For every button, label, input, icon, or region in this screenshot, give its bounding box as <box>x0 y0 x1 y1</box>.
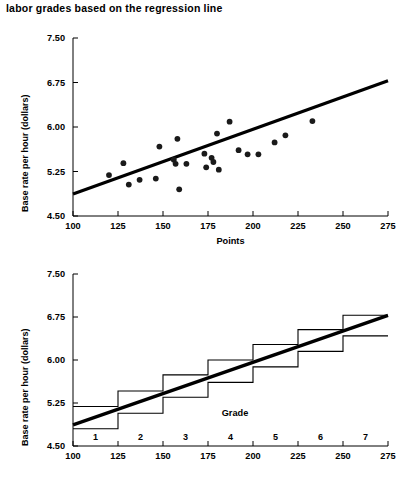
data-point <box>106 172 112 178</box>
y-tick-label: 6.75 <box>47 78 65 88</box>
x-tick-label: 250 <box>335 451 350 461</box>
data-point <box>202 151 208 157</box>
data-point <box>236 147 242 153</box>
x-tick-label: 275 <box>380 221 395 231</box>
data-point <box>203 164 209 170</box>
grade-label: 2 <box>138 432 143 442</box>
data-point <box>227 119 233 125</box>
chart2-x-axis-label: Grade <box>222 408 249 418</box>
y-tick-label: 6.00 <box>47 122 65 132</box>
data-point <box>121 160 127 166</box>
data-point <box>175 136 181 142</box>
y-tick-label: 4.50 <box>47 441 65 451</box>
step-line-upper-step <box>73 315 388 406</box>
x-tick-label: 150 <box>155 221 170 231</box>
data-point <box>126 182 132 188</box>
figure-caption: labor grades based on the regression lin… <box>6 2 223 14</box>
data-point <box>310 118 316 124</box>
y-tick-label: 6.00 <box>47 355 65 365</box>
x-tick-label: 225 <box>290 221 305 231</box>
scatter-chart: Base rate per hour (dollars) 4.505.256.0… <box>0 16 411 256</box>
x-tick-label: 100 <box>65 451 80 461</box>
data-point <box>216 167 222 173</box>
chart1-canvas: 4.505.256.006.757.5010012515017520022525… <box>0 16 411 256</box>
x-tick-label: 175 <box>200 451 215 461</box>
data-point <box>245 151 251 157</box>
grade-label: 6 <box>318 432 323 442</box>
grade-label: 3 <box>183 432 188 442</box>
chart2-canvas: 4.505.256.006.757.5010012515017520022525… <box>0 256 411 479</box>
x-tick-label: 150 <box>155 451 170 461</box>
grade-label: 7 <box>363 432 368 442</box>
regression-line <box>73 81 388 194</box>
x-tick-label: 275 <box>380 451 395 461</box>
data-point <box>184 161 190 167</box>
y-tick-label: 5.25 <box>47 398 65 408</box>
data-point <box>176 186 182 192</box>
data-point <box>173 161 179 167</box>
x-tick-label: 175 <box>200 221 215 231</box>
x-tick-label: 225 <box>290 451 305 461</box>
chart1-x-axis-label: Points <box>216 236 244 246</box>
x-tick-label: 200 <box>245 451 260 461</box>
grade-label: 1 <box>93 432 98 442</box>
x-tick-label: 125 <box>110 221 125 231</box>
data-point <box>137 177 143 183</box>
y-tick-label: 4.50 <box>47 211 65 221</box>
x-tick-label: 200 <box>245 221 260 231</box>
y-tick-label: 7.50 <box>47 269 65 279</box>
y-tick-label: 7.50 <box>47 33 65 43</box>
x-tick-label: 100 <box>65 221 80 231</box>
data-point <box>272 140 278 146</box>
data-point <box>157 144 163 150</box>
y-tick-label: 6.75 <box>47 312 65 322</box>
grade-label: 5 <box>273 432 278 442</box>
data-point <box>283 132 289 138</box>
step-chart: Base rate per hour (dollars) 4.505.256.0… <box>0 256 411 479</box>
data-point <box>256 151 262 157</box>
data-point <box>211 159 217 165</box>
data-point <box>153 176 159 182</box>
data-point <box>214 131 220 137</box>
grade-label: 4 <box>228 432 233 442</box>
y-tick-label: 5.25 <box>47 167 65 177</box>
x-tick-label: 250 <box>335 221 350 231</box>
x-tick-label: 125 <box>110 451 125 461</box>
